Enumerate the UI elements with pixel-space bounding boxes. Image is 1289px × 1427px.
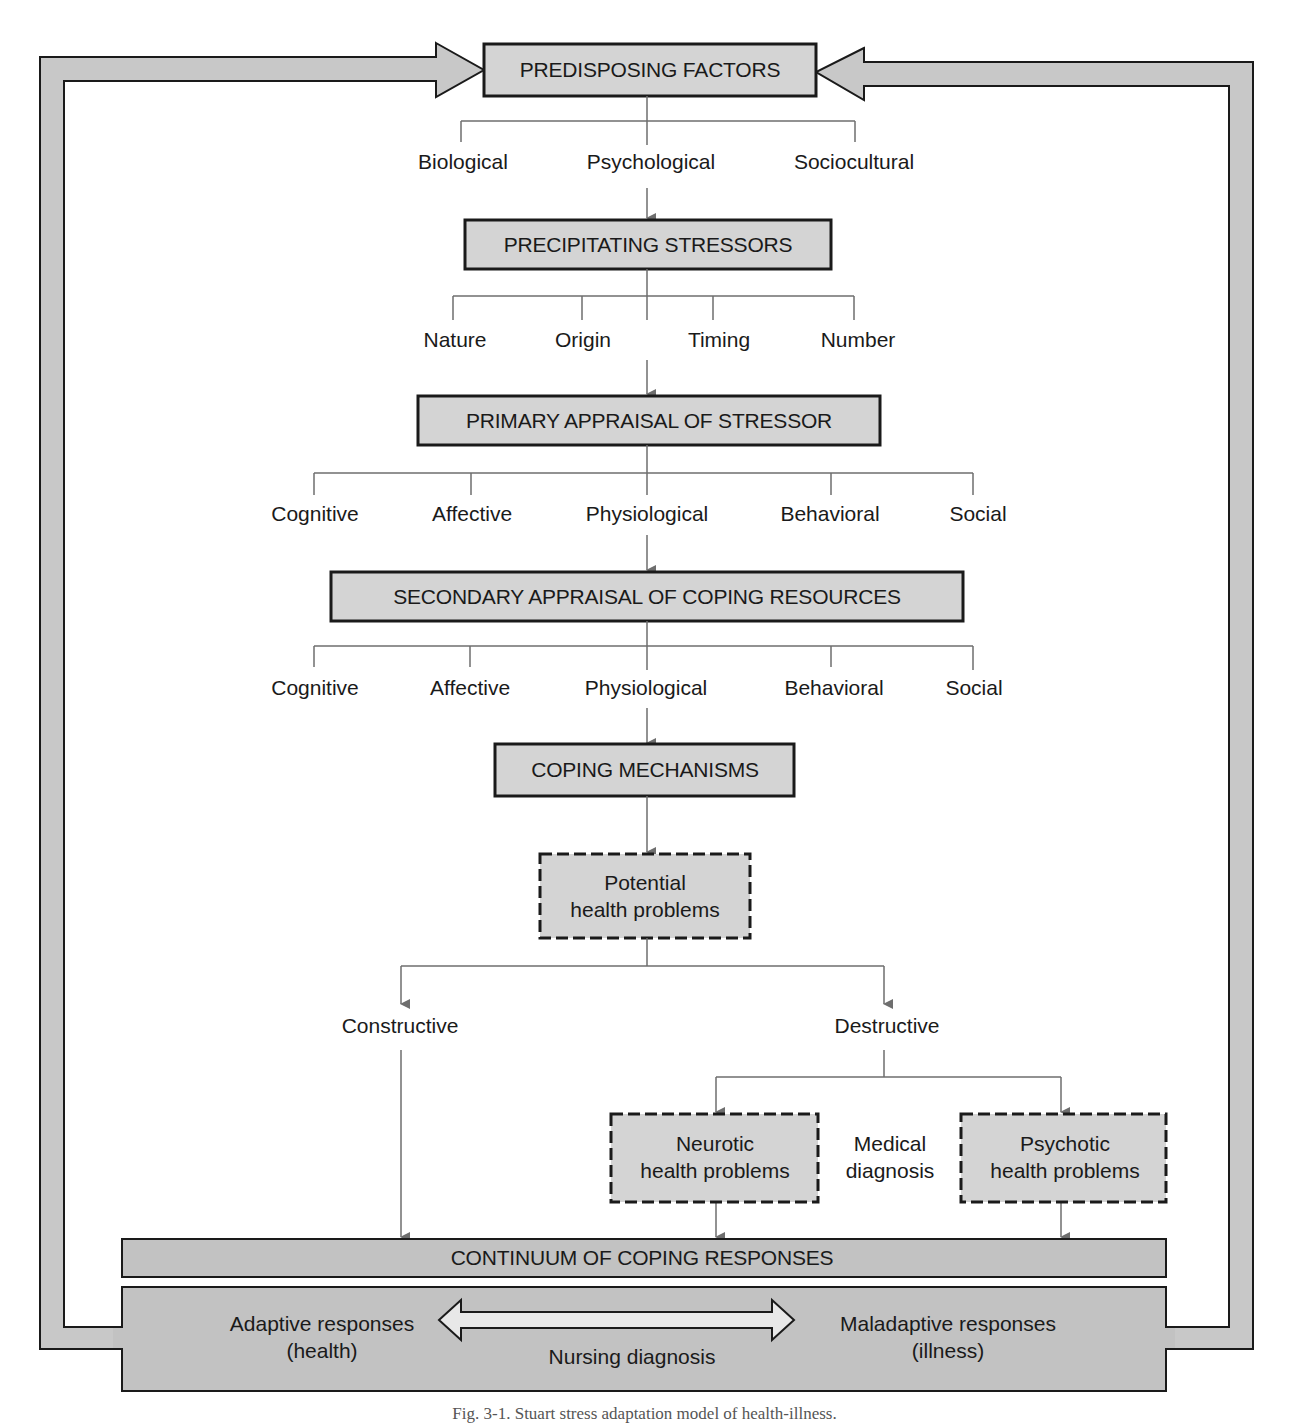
stressor-label: Number (821, 328, 896, 352)
secondary-appraisal-item: Cognitive (271, 676, 359, 700)
primary-appraisal-item: Affective (432, 502, 512, 526)
figure-caption: Fig. 3-1. Stuart stress adaptation model… (452, 1404, 836, 1424)
coping-mechanisms-title: COPING MECHANISMS (531, 758, 759, 782)
primary-appraisal-item: Cognitive (271, 502, 359, 526)
potential-health-problems-label: Potential health problems (570, 869, 719, 923)
secondary-appraisal-item: Affective (430, 676, 510, 700)
left-feedback-arrow (40, 43, 484, 1349)
adaptive-responses-label: Adaptive responses (health) (230, 1310, 414, 1364)
continuum-title: CONTINUUM OF COPING RESPONSES (451, 1246, 834, 1270)
destructive-label: Destructive (834, 1014, 939, 1038)
secondary-appraisal-title: SECONDARY APPRAISAL OF COPING RESOURCES (393, 585, 901, 609)
primary-appraisal-item: Physiological (586, 502, 709, 526)
primary-appraisal-item: Behavioral (780, 502, 879, 526)
predisposing-factors-title: PREDISPOSING FACTORS (520, 58, 781, 82)
precipitating-stressors-title: PRECIPITATING STRESSORS (504, 233, 793, 257)
medical-diagnosis-label: Medical diagnosis (846, 1130, 935, 1184)
diagram-canvas (0, 0, 1289, 1427)
stressor-label: Nature (423, 328, 486, 352)
primary-appraisal-title: PRIMARY APPRAISAL OF STRESSOR (466, 409, 832, 433)
nursing-diagnosis-label: Nursing diagnosis (549, 1345, 716, 1369)
secondary-appraisal-item: Behavioral (784, 676, 883, 700)
secondary-appraisal-item: Physiological (585, 676, 708, 700)
maladaptive-responses-label: Maladaptive responses (illness) (840, 1310, 1056, 1364)
stressor-label: Origin (555, 328, 611, 352)
factor-label: Psychological (587, 150, 715, 174)
factor-label: Biological (418, 150, 508, 174)
primary-appraisal-item: Social (949, 502, 1006, 526)
stressor-label: Timing (688, 328, 750, 352)
secondary-appraisal-item: Social (945, 676, 1002, 700)
constructive-label: Constructive (342, 1014, 459, 1038)
precipitating-connectors (453, 269, 854, 394)
factor-label: Sociocultural (794, 150, 914, 174)
psychotic-health-problems-label: Psychotic health problems (990, 1130, 1139, 1184)
neurotic-health-problems-label: Neurotic health problems (640, 1130, 789, 1184)
